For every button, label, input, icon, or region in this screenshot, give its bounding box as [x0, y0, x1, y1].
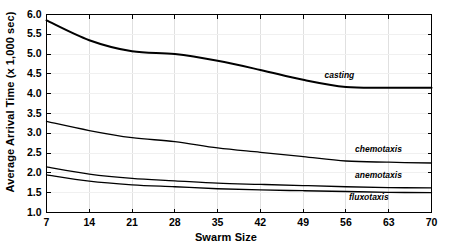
x-tick-label: 28	[160, 216, 190, 228]
y-tick-label: 4.5	[14, 67, 42, 79]
y-tick-label: 6.0	[14, 8, 42, 20]
y-tick-label: 2.5	[14, 146, 42, 158]
y-tick-label: 5.5	[14, 27, 42, 39]
x-tick-label: 14	[74, 216, 104, 228]
x-tick-label: 21	[117, 216, 147, 228]
y-tick-label: 3.0	[14, 126, 42, 138]
x-tick-label: 35	[203, 216, 233, 228]
data-series-layer	[47, 20, 432, 192]
x-tick-label: 49	[288, 216, 318, 228]
series-label-chemotaxis: chemotaxis	[355, 144, 402, 154]
x-tick-label: 56	[331, 216, 361, 228]
x-tick-label: 70	[417, 216, 447, 228]
x-tick-label: 42	[245, 216, 275, 228]
x-tick-label: 63	[374, 216, 404, 228]
y-tick-label: 4.0	[14, 87, 42, 99]
series-label-anemotaxis: anemotaxis	[355, 170, 402, 180]
y-tick-label: 5.0	[14, 47, 42, 59]
x-axis-title: Swarm Size	[0, 231, 452, 243]
y-tick-label: 3.5	[14, 107, 42, 119]
series-line-chemotaxis	[47, 121, 432, 163]
series-label-fluxotaxis: fluxotaxis	[349, 192, 389, 202]
series-label-casting: casting	[325, 70, 355, 80]
y-tick-label: 1.5	[14, 186, 42, 198]
plot-canvas	[0, 0, 452, 250]
y-tick-label: 2.0	[14, 166, 42, 178]
x-tick-label: 7	[32, 216, 62, 228]
line-chart: Average Arrival Time (x 1,000 sec) Swarm…	[0, 0, 452, 250]
